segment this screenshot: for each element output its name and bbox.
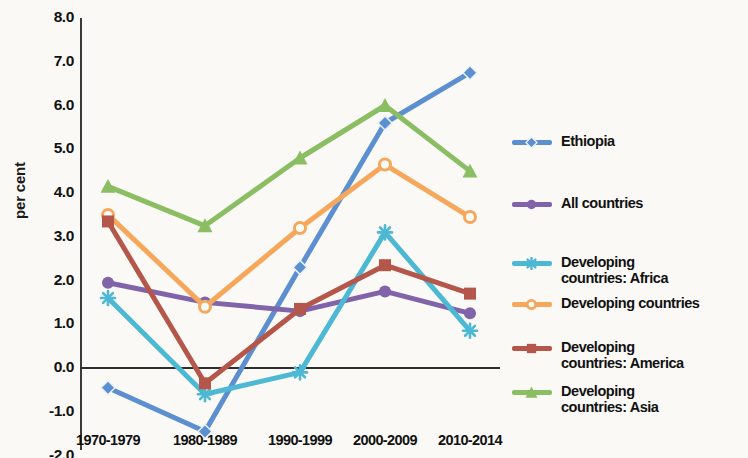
legend-label: Developing countries: Asia — [561, 383, 658, 415]
plot-area — [80, 10, 500, 450]
legend-swatch-diamond-icon — [512, 134, 552, 150]
legend-item-developing-countries-africa[interactable]: Developing countries: Africa — [512, 254, 668, 286]
legend-label: Developing countries: Africa — [561, 254, 668, 286]
y-tick-label: 1.0 — [22, 314, 74, 332]
legend-label: Ethiopia — [561, 133, 615, 149]
y-tick-label: 0.0 — [22, 358, 74, 376]
x-axis-tick-labels: 1970-19791980-19891990-19992000-20092010… — [80, 432, 520, 458]
chart-root: per cent 8.07.06.05.04.03.02.01.00.0-1.0… — [0, 0, 748, 458]
y-axis-tick-labels: 8.07.06.05.04.03.02.01.00.0-1.0-2.0 — [12, 0, 74, 458]
x-tick-label: 2000-2009 — [337, 432, 433, 448]
x-tick-label: 1990-1999 — [252, 432, 348, 448]
y-tick-label: -1.0 — [22, 402, 74, 420]
legend-swatch-star-icon — [512, 255, 552, 271]
legend-swatch-circle-open-icon — [512, 296, 552, 312]
y-tick-label: 4.0 — [22, 183, 74, 201]
y-tick-label: 8.0 — [22, 8, 74, 26]
legend-swatch-triangle-icon — [512, 384, 552, 400]
zero-baseline — [80, 367, 500, 369]
legend-item-developing-countries-america[interactable]: Developing countries: America — [512, 339, 684, 371]
x-tick-label: 1980-1989 — [157, 432, 253, 448]
y-axis-line — [80, 18, 82, 450]
legend-item-all-countries[interactable]: All countries — [512, 195, 643, 212]
legend-label: All countries — [561, 195, 643, 211]
legend-label: Developing countries: America — [561, 339, 684, 371]
legend-label: Developing countries — [561, 295, 699, 311]
y-tick-label: 5.0 — [22, 139, 74, 157]
y-tick-label: 3.0 — [22, 227, 74, 245]
legend-item-developing-countries[interactable]: Developing countries — [512, 295, 699, 312]
legend-swatch-square-icon — [512, 340, 552, 356]
legend-item-ethiopia[interactable]: Ethiopia — [512, 133, 615, 150]
legend-swatch-circle-icon — [512, 196, 552, 212]
legend-item-developing-countries-asia[interactable]: Developing countries: Asia — [512, 383, 658, 415]
x-tick-label: 2010-2014 — [422, 432, 518, 448]
y-tick-label: 2.0 — [22, 271, 74, 289]
y-tick-label: 6.0 — [22, 96, 74, 114]
y-tick-label: 7.0 — [22, 52, 74, 70]
x-tick-label: 1970-1979 — [60, 432, 156, 448]
